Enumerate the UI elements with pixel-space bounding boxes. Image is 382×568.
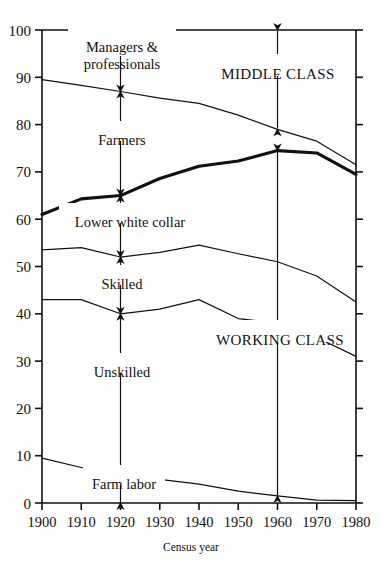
y-tick-label-50: 50: [16, 259, 31, 275]
y-tick-label-40: 40: [16, 306, 31, 322]
y-tick-label-100: 100: [9, 23, 32, 39]
y-tick-label-80: 80: [16, 117, 31, 133]
y-tick-labels: 0102030405060708090100: [9, 23, 32, 512]
x-tick-label-1930: 1930: [145, 514, 174, 530]
x-tick-label-1960: 1960: [263, 514, 292, 530]
x-tick-label-1980: 1980: [342, 514, 371, 530]
series-line-2: [42, 245, 356, 302]
arrow-head: [273, 128, 281, 136]
x-axis-title: Census year: [163, 541, 219, 554]
label-unskilled: Unskilled: [94, 364, 151, 380]
x-tick-label-1950: 1950: [224, 514, 253, 530]
x-tick-label-1900: 1900: [28, 514, 57, 530]
chart-axes: [42, 30, 356, 503]
x-tick-labels: 190019101920193019401950196019701980: [28, 514, 371, 530]
chart-canvas: 0102030405060708090100 19001910192019301…: [0, 0, 382, 568]
label-managers: Managers &: [86, 39, 159, 55]
y-tick-label-90: 90: [16, 70, 31, 86]
x-tick-label-1920: 1920: [106, 514, 135, 530]
y-ticks-left: [35, 30, 42, 503]
y-tick-label-60: 60: [16, 212, 31, 228]
x-tick-label-1910: 1910: [67, 514, 96, 530]
y-ticks-right: [356, 30, 363, 503]
y-tick-label-10: 10: [16, 448, 31, 464]
label-working-class: WORKING CLASS: [216, 332, 344, 348]
x-tick-label-1970: 1970: [302, 514, 331, 530]
x-tick-label-1940: 1940: [185, 514, 214, 530]
y-tick-label-0: 0: [24, 496, 32, 512]
y-tick-label-70: 70: [16, 164, 31, 180]
label-farmers: Farmers: [98, 132, 146, 148]
label-middle-class: MIDDLE CLASS: [221, 66, 335, 82]
chart-figure: 0102030405060708090100 19001910192019301…: [0, 0, 382, 568]
label-farm-labor: Farm labor: [92, 476, 156, 492]
y-tick-label-20: 20: [16, 401, 31, 417]
label-lower-white-collar: Lower white collar: [75, 214, 185, 230]
annotation-4: [116, 307, 124, 484]
x-ticks: [42, 503, 356, 510]
label-professionals: professionals: [84, 56, 161, 72]
y-tick-label-30: 30: [16, 354, 31, 370]
data-series-group: [42, 80, 356, 501]
label-skilled: Skilled: [101, 276, 143, 292]
